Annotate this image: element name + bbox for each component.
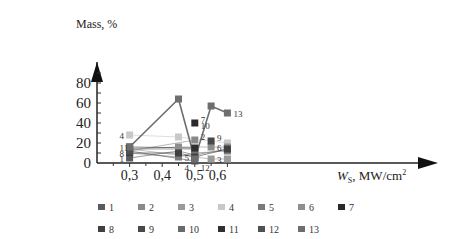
point-label: 10 — [201, 121, 211, 131]
legend-label: 5 — [269, 202, 274, 213]
legend-label: 4 — [229, 202, 234, 213]
legend-swatch-icon — [178, 204, 185, 210]
point-label: 1 — [120, 154, 125, 164]
legend-swatch-icon — [138, 204, 145, 210]
legend-swatch-icon — [298, 226, 305, 232]
point-label: 4 — [120, 131, 125, 141]
data-point-13 — [191, 156, 198, 163]
data-point-3 — [208, 156, 215, 163]
legend-label: 11 — [229, 224, 239, 235]
legend-swatch-icon — [258, 226, 265, 232]
legend-swatch-icon — [178, 226, 185, 232]
legend-item-12: 12 — [258, 224, 298, 235]
point-label: 3 — [217, 155, 222, 165]
legend-item-13: 13 — [298, 224, 338, 235]
data-point-3 — [224, 156, 231, 163]
data-point-6 — [175, 144, 182, 151]
legend-item-4: 4 — [218, 202, 258, 213]
y-tick-label: 40 — [76, 115, 91, 131]
x-tick-label: 0,3 — [121, 168, 139, 183]
legend-label: 3 — [189, 202, 194, 213]
data-point-9 — [208, 138, 215, 145]
legend-swatch-icon — [218, 226, 225, 232]
point-label: 9 — [217, 133, 222, 143]
data-point-13 — [175, 96, 182, 103]
y-tick-label: 0 — [84, 155, 92, 171]
y-tick-label: 60 — [76, 95, 91, 111]
x-axis-label: WS, MW/cm2 — [337, 168, 406, 185]
legend-swatch-icon — [258, 204, 265, 210]
point-label: 12 — [201, 163, 210, 173]
point-label: 2 — [201, 132, 206, 142]
legend-label: 10 — [189, 224, 199, 235]
y-tick-label: 80 — [76, 75, 91, 91]
data-point-8 — [224, 146, 231, 153]
legend-item-11: 11 — [218, 224, 258, 235]
legend-label: 13 — [309, 224, 319, 235]
legend-item-9: 9 — [138, 224, 178, 235]
data-point-6 — [208, 144, 215, 151]
point-label: 4 — [185, 163, 190, 173]
legend-label: 6 — [309, 202, 314, 213]
legend-swatch-icon — [98, 226, 105, 232]
legend-label: 8 — [109, 224, 114, 235]
legend-item-8: 8 — [98, 224, 138, 235]
legend-label: 2 — [149, 202, 154, 213]
x-axis-arrow-icon — [418, 157, 438, 169]
legend-swatch-icon — [98, 204, 105, 210]
point-label: 5 — [185, 153, 190, 163]
data-point-11 — [191, 145, 198, 152]
data-point-2 — [191, 137, 198, 144]
y-axis-label: Mass, % — [76, 17, 117, 31]
legend-item-3: 3 — [178, 202, 218, 213]
chart-legend: 1234567 8910111213 — [98, 196, 418, 239]
data-point-4 — [175, 134, 182, 141]
legend-label: 9 — [149, 224, 154, 235]
legend-label: 7 — [349, 202, 354, 213]
x-tick-label: 0,4 — [153, 168, 171, 183]
x-tick-label: 0,6 — [209, 168, 227, 183]
legend-item-6: 6 — [298, 202, 338, 213]
legend-row-1: 1234567 — [98, 196, 418, 218]
point-label: 13 — [233, 109, 243, 119]
point-label: 6 — [217, 143, 222, 153]
legend-swatch-icon — [138, 226, 145, 232]
y-axis-arrow-icon — [91, 62, 103, 82]
legend-item-1: 1 — [98, 202, 138, 213]
legend-item-10: 10 — [178, 224, 218, 235]
data-point-4 — [126, 132, 133, 139]
legend-swatch-icon — [338, 204, 345, 210]
y-tick-label: 20 — [76, 135, 91, 151]
legend-item-5: 5 — [258, 202, 298, 213]
legend-label: 1 — [109, 202, 114, 213]
legend-swatch-icon — [298, 204, 305, 210]
data-point-7 — [191, 120, 198, 127]
legend-item-2: 2 — [138, 202, 178, 213]
data-point-13 — [208, 103, 215, 110]
data-point-8 — [175, 150, 182, 157]
legend-swatch-icon — [218, 204, 225, 210]
legend-row-2: 8910111213 — [98, 218, 418, 239]
data-point-13 — [224, 110, 231, 117]
legend-item-7: 7 — [338, 202, 378, 213]
legend-label: 12 — [269, 224, 279, 235]
